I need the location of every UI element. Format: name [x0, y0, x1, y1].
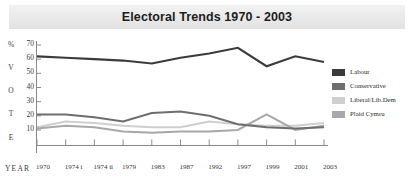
legend-item: Labour: [332, 68, 370, 77]
x-axis-ticks-group: [37, 140, 324, 146]
line-chart-svg: [36, 41, 328, 153]
series-lines-group: [37, 48, 324, 133]
x-axis-tick-label: 1999: [266, 164, 280, 171]
series-line: [37, 48, 324, 66]
x-axis-tick-label: 1987: [180, 164, 194, 171]
x-axis-tick-label: 1992: [208, 164, 222, 171]
y-axis-tick-label: 10: [27, 125, 35, 133]
y-axis-title-letter: %: [8, 41, 14, 49]
x-axis-tick-label: 1974 i: [65, 164, 83, 171]
y-axis-tick-label: 40: [27, 83, 35, 91]
page-title: Electoral Trends 1970 - 2003: [122, 10, 292, 24]
legend-swatch-icon: [332, 111, 345, 118]
x-axis-tick-label: 1974 ii: [93, 164, 113, 171]
legend-item-label: Liberal/Lib.Dem: [350, 97, 396, 104]
series-line: [37, 114, 324, 132]
legend-item-label: Plaid Cymru: [350, 111, 385, 118]
x-axis-tick-label: 1983: [151, 164, 165, 171]
legend-swatch-icon: [332, 69, 345, 76]
y-axis-tick-label: 30: [27, 97, 35, 105]
y-axis-tick-label: 20: [27, 111, 35, 119]
y-axis-tick-label: 50: [27, 68, 35, 76]
legend-item-label: Labour: [350, 69, 370, 76]
chart-figure: Electoral Trends 1970 - 2003 %VOTE 70605…: [0, 0, 414, 183]
y-axis-title-letter: T: [9, 110, 14, 118]
y-axis-title-letter: V: [8, 64, 13, 72]
x-axis-tick-labels: 19701974 i1974 ii19791983198719921997199…: [36, 164, 328, 176]
plot-area: [36, 41, 328, 153]
legend-item: Liberal/Lib.Dem: [332, 96, 396, 105]
x-axis-tick-label: 2001: [294, 164, 308, 171]
legend-item-label: Conservative: [350, 83, 386, 90]
y-axis-tick-label: 60: [27, 54, 35, 62]
y-axis-title-letter: E: [9, 134, 14, 142]
legend-item: Conservative: [332, 82, 386, 91]
y-axis-title-letter: O: [8, 87, 13, 95]
x-axis-tick-label: 1970: [36, 164, 50, 171]
y-axis-tick-label: 70: [27, 40, 35, 48]
x-axis-tick-label: 1979: [122, 164, 136, 171]
x-axis-tick-label: 1997: [237, 164, 251, 171]
chart-legend: LabourConservativeLiberal/Lib.DemPlaid C…: [332, 68, 412, 124]
title-band: Electoral Trends 1970 - 2003: [9, 5, 405, 29]
x-axis-tick-label: 2003: [323, 164, 337, 171]
legend-swatch-icon: [332, 83, 345, 90]
legend-swatch-icon: [332, 97, 345, 104]
x-axis-title: YEAR: [5, 164, 30, 173]
y-axis-tick-labels: 70605040302010: [16, 40, 34, 152]
legend-item: Plaid Cymru: [332, 110, 385, 119]
